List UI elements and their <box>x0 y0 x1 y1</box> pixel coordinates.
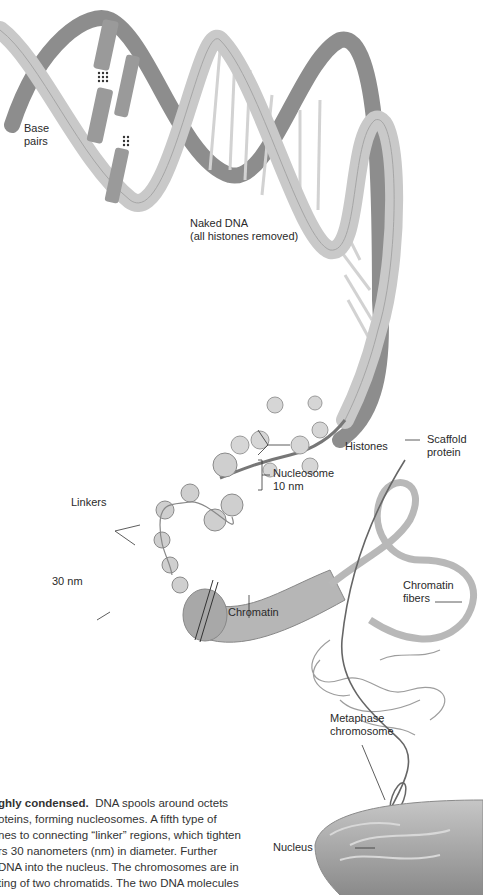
label-linkers: Linkers <box>71 496 106 509</box>
label-metaphase-chromosome: Metaphase chromosome <box>330 712 394 738</box>
nucleus <box>315 800 483 895</box>
label-30nm: 30 nm <box>52 575 83 588</box>
figure-caption: ghly condensed. DNA spools around octets… <box>0 795 328 891</box>
caption-bold: ghly condensed. <box>0 797 89 809</box>
label-chromatin-fibers: Chromatin fibers <box>403 579 454 605</box>
label-base-pairs: Base pairs <box>24 122 49 148</box>
label-naked-dna: Naked DNA (all histones removed) <box>190 217 298 243</box>
chromatin-fiber-loops <box>330 483 474 639</box>
label-histones: Histones <box>345 440 388 453</box>
label-nucleosome: Nucleosome 10 nm <box>273 467 334 493</box>
label-chromatin: Chromatin <box>228 606 279 619</box>
label-scaffold-protein: Scaffold protein <box>427 433 467 459</box>
histones <box>231 396 328 477</box>
dna-condensation-diagram <box>0 0 483 895</box>
